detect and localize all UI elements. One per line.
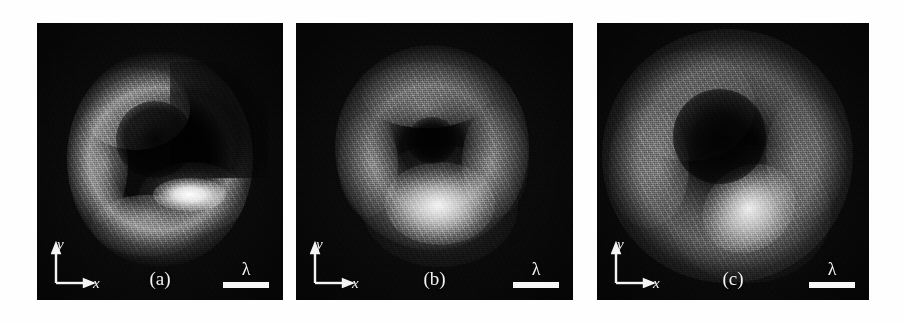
scale-bar-line-b: [513, 282, 559, 288]
figure-container: y x (a) λ: [0, 0, 904, 323]
lambda-symbol-a: λ: [223, 260, 269, 278]
axis-y-label-c: y: [615, 238, 624, 252]
scale-bar-line-c: [809, 282, 855, 288]
scale-bar-line-a: [223, 282, 269, 288]
panel-c: y x (c) λ: [597, 23, 869, 300]
scale-bar-b: λ: [513, 260, 559, 288]
axis-y-label-b: y: [314, 238, 323, 252]
panel-b: y x (b) λ: [296, 23, 573, 300]
scale-bar-c: λ: [809, 260, 855, 288]
scale-bar-a: λ: [223, 260, 269, 288]
panel-a: y x (a) λ: [37, 23, 283, 300]
axis-y-label-a: y: [55, 238, 64, 252]
lambda-symbol-b: λ: [513, 260, 559, 278]
lambda-symbol-c: λ: [809, 260, 855, 278]
